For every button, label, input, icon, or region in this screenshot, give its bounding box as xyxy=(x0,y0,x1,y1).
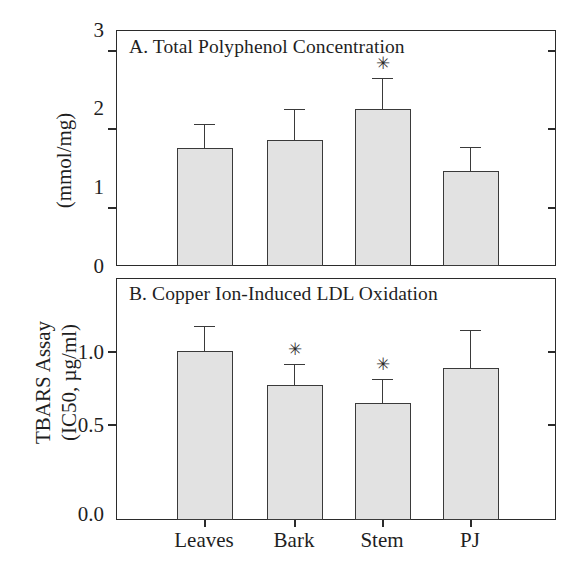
x-axis-label-stem: Stem xyxy=(360,528,403,553)
panel-b-errorbar-pj xyxy=(470,330,471,368)
panel-b-bar-pj[interactable] xyxy=(443,368,499,520)
x-axis-label-pj: PJ xyxy=(460,528,480,553)
panel-b-xtick-bark xyxy=(294,520,296,527)
panel-a-errorbar-bark xyxy=(294,109,295,140)
panel-a-total-polyphenol-concentration: (mmol/mg) 3 2 1 0 A. Total Polyphenol Co… xyxy=(0,0,586,272)
panel-a-errorcap-leaves xyxy=(194,124,215,125)
panel-b-ytick-right-0-5 xyxy=(548,424,556,426)
panel-b-errorbar-stem xyxy=(382,379,383,403)
panel-b-ytick-label-0-5: 0.5 xyxy=(52,413,104,438)
figure-container: (mmol/mg) 3 2 1 0 A. Total Polyphenol Co… xyxy=(0,0,586,573)
panel-b-y-axis-title-line2: (IC50, µg/ml) xyxy=(57,303,82,463)
panel-a-ytick-label-2: 2 xyxy=(70,96,104,121)
panel-a-ytick-right-1 xyxy=(548,207,556,209)
panel-a-ytick-right-3 xyxy=(548,50,556,52)
panel-b-bar-stem[interactable] xyxy=(355,403,411,520)
panel-b-bar-bark[interactable] xyxy=(267,385,323,520)
panel-a-ytick-mark-1 xyxy=(108,207,116,209)
panel-b-errorbar-bark xyxy=(294,364,295,385)
panel-a-errorbar-leaves xyxy=(204,124,205,148)
panel-a-ytick-label-3: 3 xyxy=(70,18,104,43)
panel-a-ytick-right-2 xyxy=(548,128,556,130)
panel-a-errorbar-stem xyxy=(382,78,383,109)
panel-b-plot-frame: B. Copper Ion-Induced LDL Oxidation ✳ ✳ xyxy=(116,278,556,520)
panel-b-y-axis-title-line1: TBARS Assay xyxy=(31,303,56,463)
panel-b-xtick-pj xyxy=(470,520,472,527)
panel-b-xtick-leaves xyxy=(204,520,206,527)
panel-b-significance-marker-bark: ✳ xyxy=(288,341,302,358)
panel-a-ytick-mark-2 xyxy=(108,128,116,130)
panel-a-significance-marker-stem: ✳ xyxy=(376,55,390,72)
x-axis-label-bark: Bark xyxy=(274,528,315,553)
panel-b-errorcap-pj xyxy=(460,330,481,331)
panel-b-errorcap-stem xyxy=(372,379,393,380)
panel-a-bar-stem[interactable] xyxy=(355,109,411,266)
panel-a-ytick-mark-3 xyxy=(108,50,116,52)
panel-b-ytick-label-0-0: 0.0 xyxy=(52,502,104,527)
panel-b-errorcap-leaves xyxy=(194,326,215,327)
panel-a-errorcap-stem xyxy=(372,78,393,79)
panel-b-ytick-right-1-0 xyxy=(548,351,556,353)
panel-a-errorbar-pj xyxy=(470,147,471,171)
panel-b-significance-marker-stem: ✳ xyxy=(376,356,390,373)
panel-b-plot-area: ✳ ✳ xyxy=(117,279,555,519)
x-axis-label-leaves: Leaves xyxy=(174,528,233,553)
panel-a-bar-leaves[interactable] xyxy=(177,148,233,266)
panel-a-errorcap-bark xyxy=(284,109,305,110)
panel-b-ytick-label-1-0: 1.0 xyxy=(52,340,104,365)
panel-b-errorbar-leaves xyxy=(204,326,205,351)
panel-a-ytick-label-1: 1 xyxy=(70,175,104,200)
panel-b-xtick-stem xyxy=(382,520,384,527)
panel-a-bar-pj[interactable] xyxy=(443,171,499,266)
panel-b-copper-ion-induced-ldl-oxidation: TBARS Assay (IC50, µg/ml) 1.0 0.5 0.0 B.… xyxy=(0,272,586,573)
panel-b-errorcap-bark xyxy=(284,364,305,365)
panel-b-bar-leaves[interactable] xyxy=(177,351,233,520)
panel-a-plot-frame: A. Total Polyphenol Concentration ✳ xyxy=(116,30,556,266)
panel-a-errorcap-pj xyxy=(460,147,481,148)
panel-a-bar-bark[interactable] xyxy=(267,140,323,266)
panel-b-ytick-mark-0-5 xyxy=(108,424,116,426)
panel-a-plot-area: ✳ xyxy=(117,31,555,265)
panel-b-ytick-mark-1-0 xyxy=(108,351,116,353)
